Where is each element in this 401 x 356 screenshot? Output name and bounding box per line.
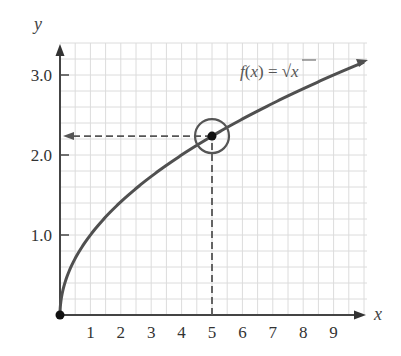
x-tick-label: 1 (86, 323, 95, 342)
x-tick-label: 7 (269, 323, 278, 342)
x-tick-label: 2 (117, 323, 126, 342)
x-axis-label: x (373, 304, 382, 324)
sqrt-function-chart: 1234567891.02.03.0 y x f(x) = √x (0, 0, 401, 356)
y-tick-label: 1.0 (31, 226, 52, 245)
y-axis-label: y (32, 14, 42, 34)
grid (60, 43, 367, 315)
axes (56, 44, 367, 320)
function-label: f(x) = √x (240, 60, 316, 81)
x-tick-label: 3 (147, 323, 156, 342)
origin-point (56, 311, 65, 320)
point-5-sqrt5 (208, 132, 217, 141)
x-tick-label: 9 (329, 323, 338, 342)
y-tick-label: 3.0 (31, 66, 52, 85)
x-tick-label: 4 (177, 323, 186, 342)
x-tick-label: 5 (208, 323, 217, 342)
y-tick-label: 2.0 (31, 146, 52, 165)
svg-text:f(x) = √x: f(x) = √x (240, 62, 299, 81)
y-axis-arrow-icon (56, 44, 65, 56)
x-tick-label: 6 (238, 323, 247, 342)
x-tick-label: 8 (299, 323, 308, 342)
